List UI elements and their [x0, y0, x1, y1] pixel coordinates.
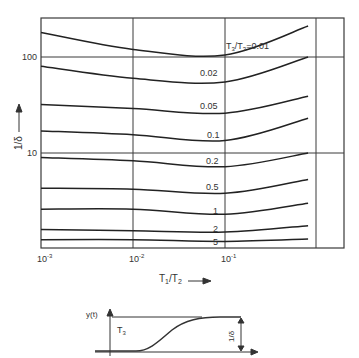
curve-label-2: 2 — [213, 224, 218, 234]
x-axis-label: T1/T2 — [159, 273, 182, 285]
curve-0.02 — [41, 57, 308, 83]
curve-label-0.5: 0.5 — [206, 182, 219, 192]
y-axis-label: 1/δ — [13, 136, 24, 150]
x-tick-1e-2: 10-2 — [129, 253, 145, 264]
svg-text:1/δ: 1/δ — [227, 330, 236, 342]
curve-0.1 — [41, 118, 308, 141]
inset-y-label: y(t) — [86, 310, 98, 319]
inset-delta-label: 1/δ — [227, 330, 236, 342]
curve-2 — [41, 226, 308, 233]
chart-figure: T3/T3=0.01 0.02 0.05 0.1 0.2 0.5 1 2 5 1… — [0, 0, 359, 358]
curve-label-0.05: 0.05 — [200, 101, 218, 111]
y-tick-100: 100 — [22, 52, 37, 62]
curve-0.05 — [41, 96, 308, 113]
curve-label-5: 5 — [213, 237, 218, 247]
x-tick-1e-3: 10-3 — [37, 253, 53, 264]
curves — [41, 26, 308, 241]
curve-1 — [41, 203, 308, 214]
x-tick-1e-1: 10-1 — [221, 253, 237, 264]
curve-label-1: 1 — [213, 206, 218, 216]
y-tick-10: 10 — [27, 148, 37, 158]
curve-label-0.2: 0.2 — [206, 156, 219, 166]
curve-label-0.1: 0.1 — [207, 130, 220, 140]
y-axis-arrow-icon — [16, 104, 22, 132]
inset-t3-label: T3 — [117, 325, 127, 336]
curve-label-0.01: T3/T3=0.01 — [226, 41, 269, 52]
curve-0.2 — [41, 153, 308, 167]
svg-text:1/δ: 1/δ — [13, 136, 24, 150]
curve-0.5 — [41, 179, 308, 193]
curve-5 — [41, 239, 308, 241]
x-axis-arrow-icon — [188, 278, 211, 284]
curve-label-0.02: 0.02 — [200, 68, 218, 78]
